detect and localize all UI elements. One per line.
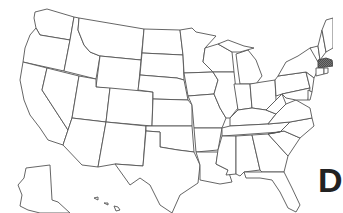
state-massachusetts[interactable] xyxy=(318,58,333,68)
state-hawaii[interactable] xyxy=(94,197,120,211)
state-north-dakota[interactable] xyxy=(142,29,183,55)
state-arkansas[interactable] xyxy=(194,128,222,152)
state-alaska[interactable] xyxy=(18,165,70,213)
state-new-mexico[interactable] xyxy=(98,122,146,167)
state-florida[interactable] xyxy=(244,172,300,212)
state-michigan[interactable] xyxy=(236,50,262,84)
state-connecticut[interactable] xyxy=(316,68,324,76)
state-rhode-island[interactable] xyxy=(324,68,328,74)
state-colorado[interactable] xyxy=(106,88,153,126)
state-iowa[interactable] xyxy=(184,72,218,96)
state-delaware[interactable] xyxy=(308,90,312,100)
state-wyoming[interactable] xyxy=(96,56,141,92)
state-kansas[interactable] xyxy=(152,99,192,126)
partial-letter: D xyxy=(318,163,343,197)
